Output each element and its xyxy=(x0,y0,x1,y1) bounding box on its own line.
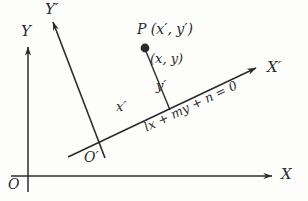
x-prime-axis-label: X′ xyxy=(267,60,281,75)
prime-origin-label: O′ xyxy=(84,150,99,164)
x-axis-label: X xyxy=(281,167,292,182)
point-p-dot xyxy=(141,44,150,53)
y-prime-axis-label: Y′ xyxy=(45,2,58,17)
y-axis-label: Y xyxy=(21,24,31,39)
point-xy-label: (x, y) xyxy=(150,52,183,65)
x-prime-segment-label: x′ xyxy=(116,100,126,113)
point-p-label: P (x′, y′) xyxy=(137,22,193,36)
origin-label: O xyxy=(8,177,19,191)
geometry-diagram: Y O X Y′ X′ O′ P (x′, y′) (x, y) y′ x′ l… xyxy=(0,0,308,201)
y-prime-segment-label: y′ xyxy=(156,79,166,92)
y-prime-axis xyxy=(53,22,105,158)
